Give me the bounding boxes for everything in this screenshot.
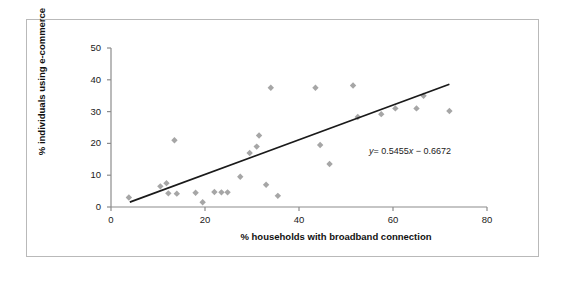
data-point-marker xyxy=(174,190,180,196)
data-point-marker xyxy=(192,189,198,195)
y-tick-label: 30 xyxy=(77,106,101,117)
y-tick-label: 0 xyxy=(77,201,101,212)
y-tick-label: 20 xyxy=(77,137,101,148)
y-tick-label: 40 xyxy=(77,74,101,85)
trendline-equation-label: y= 0.5455x − 0.6672 xyxy=(369,146,451,156)
data-point-marker xyxy=(218,189,224,195)
x-tick-label: 40 xyxy=(287,214,311,225)
data-point-marker xyxy=(126,194,132,200)
x-tick-label: 60 xyxy=(381,214,405,225)
trend-line-segment xyxy=(130,84,450,202)
data-point-marker xyxy=(312,85,318,91)
y-tick-label: 50 xyxy=(77,42,101,53)
x-tick-label: 20 xyxy=(193,214,217,225)
equation-x-symbol: x xyxy=(409,146,414,156)
data-point-marker xyxy=(171,137,177,143)
x-axis-ticks xyxy=(111,207,487,211)
x-axis-label: % households with broadband connection xyxy=(196,231,476,242)
data-point-marker xyxy=(211,189,217,195)
data-point-marker xyxy=(263,182,269,188)
trend-line xyxy=(130,84,450,202)
data-point-marker xyxy=(413,105,419,111)
data-point-marker xyxy=(163,180,169,186)
y-axis-label: % individuals using e-commerce xyxy=(36,0,47,167)
x-tick-label: 80 xyxy=(475,214,499,225)
data-point-marker xyxy=(165,190,171,196)
data-point-marker xyxy=(392,105,398,111)
data-point-marker xyxy=(446,108,452,114)
data-point-marker xyxy=(268,85,274,91)
data-point-marker xyxy=(157,183,163,189)
data-point-marker xyxy=(199,199,205,205)
data-point-marker xyxy=(350,82,356,88)
x-tick-label: 0 xyxy=(99,214,123,225)
chart-figure: 01020304050020406080 % individuals using… xyxy=(0,0,566,281)
data-point-marker xyxy=(317,142,323,148)
data-point-marker xyxy=(224,189,230,195)
data-point-marker xyxy=(237,174,243,180)
data-point-marker xyxy=(246,150,252,156)
y-tick-label: 10 xyxy=(77,169,101,180)
data-point-marker xyxy=(254,143,260,149)
data-point-marker xyxy=(326,161,332,167)
equation-slope-part: = 0.5455 xyxy=(374,146,409,156)
data-point-marker xyxy=(256,132,262,138)
equation-intercept-part: − 0.6672 xyxy=(416,146,451,156)
data-point-marker xyxy=(275,193,281,199)
data-point-marker xyxy=(378,111,384,117)
